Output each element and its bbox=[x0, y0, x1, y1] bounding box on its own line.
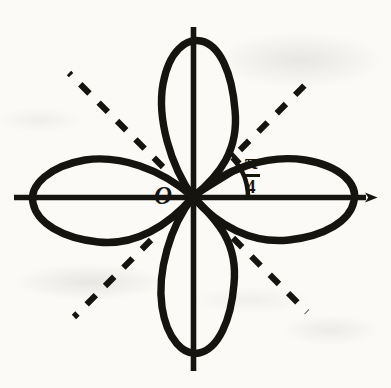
angle-denominator: 4 bbox=[237, 178, 265, 196]
asymptote-ray-45deg bbox=[240, 83, 307, 150]
polar-rose-svg bbox=[0, 0, 391, 388]
asymptote-ray-225deg bbox=[74, 240, 151, 317]
asymptote-ray-135deg bbox=[69, 73, 163, 167]
angle-numerator: π bbox=[235, 152, 266, 173]
asymptote-ray-315deg bbox=[233, 238, 307, 312]
polar-rose-figure: O π 4 bbox=[0, 0, 391, 388]
angle-label: π 4 bbox=[237, 152, 265, 196]
origin-label: O bbox=[154, 183, 172, 208]
